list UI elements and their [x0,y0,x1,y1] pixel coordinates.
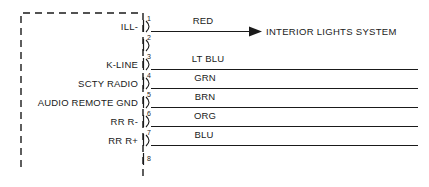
pin-label-rr-r-plus: RR R+ [108,135,138,146]
wire-color-label-brn: BRN [195,91,216,102]
pin-number-2: 2 [147,34,151,41]
pin-number-7: 7 [147,129,151,136]
pin-label-scty-radio: SCTY RADIO [78,78,138,89]
connector-pin-1: 1 ILL- RED INTERIOR LIGHTS SYSTEM [121,15,397,37]
wire-color-label-grn: GRN [194,72,216,83]
destination-label-interior-lights-system: INTERIOR LIGHTS SYSTEM [266,26,397,37]
arrow-head-interior-lights [249,27,262,37]
radio-module-outline [21,13,143,179]
connector-pin-7: 7 RR R+ BLU [108,129,418,146]
wiring-diagram: 1 ILL- RED INTERIOR LIGHTS SYSTEM 2 3 K-… [0,0,429,187]
pin-number-3: 3 [147,53,151,60]
connector-pin-2: 2 [144,34,152,51]
wire-color-label-lt-blu: LT BLU [192,53,225,64]
pin-label-ill-minus: ILL- [121,21,138,32]
pin-number-1: 1 [147,15,151,22]
pin-number-6: 6 [147,110,151,117]
pin-number-4: 4 [147,72,151,79]
wiring-diagram-canvas: 1 ILL- RED INTERIOR LIGHTS SYSTEM 2 3 K-… [0,0,429,187]
wire-color-label-red: RED [193,15,214,26]
wire-color-label-blu: BLU [194,129,213,140]
connector-pin-8: 8 [144,153,152,165]
connector-pin-3: 3 K-LINE LT BLU [106,53,418,70]
pin-number-8: 8 [147,155,151,162]
pin-label-audio-remote-gnd: AUDIO REMOTE GND [38,97,138,108]
connector-pin-5: 5 AUDIO REMOTE GND BRN [38,91,418,108]
pin-label-rr-r-minus: RR R- [111,116,138,127]
wire-color-label-org: ORG [194,110,216,121]
pin-number-5: 5 [147,91,151,98]
connector-pin-4: 4 SCTY RADIO GRN [78,72,418,89]
connector-pin-6: 6 RR R- ORG [111,110,418,127]
pin-label-k-line: K-LINE [106,59,138,70]
